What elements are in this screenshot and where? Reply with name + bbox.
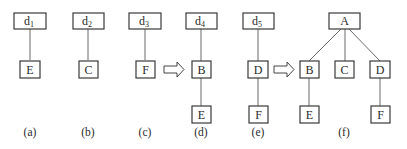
caption-c: (c): [139, 126, 152, 139]
caption-d: (d): [194, 126, 208, 139]
right-arrow-icon: [164, 62, 184, 77]
panel-b: d2 C (b): [73, 13, 104, 139]
edge: [309, 29, 341, 61]
node-c-label: C: [340, 63, 348, 77]
panel-c: d3 F (c): [129, 13, 161, 139]
node-f-label: F: [377, 108, 384, 122]
node-b-label: B: [197, 63, 205, 77]
caption-e: (e): [252, 126, 265, 139]
right-arrow-icon: [274, 62, 294, 77]
caption-f: (f): [338, 126, 350, 139]
tree-merge-diagram: d1 E (a) d2 C (b) d3 F (c) d4 B E (d): [0, 0, 407, 149]
node-e-label: E: [26, 63, 33, 77]
panel-a: d1 E (a): [14, 13, 46, 139]
panel-f: A B C D E F (f): [300, 13, 390, 139]
caption-b: (b): [81, 126, 95, 139]
node-f-label: F: [142, 63, 149, 77]
panel-d: d4 B E (d): [186, 13, 217, 139]
caption-a: (a): [24, 126, 37, 139]
node-a-label: A: [340, 14, 349, 28]
node-b-label: B: [305, 63, 313, 77]
node-d-label: D: [376, 63, 385, 77]
node-d-label: D: [254, 63, 263, 77]
node-f-label: F: [255, 108, 262, 122]
edge: [349, 29, 380, 61]
panel-e: d5 D F (e): [243, 13, 274, 139]
node-e-label: E: [306, 108, 313, 122]
node-e-label: E: [198, 108, 205, 122]
node-c-label: C: [84, 63, 92, 77]
